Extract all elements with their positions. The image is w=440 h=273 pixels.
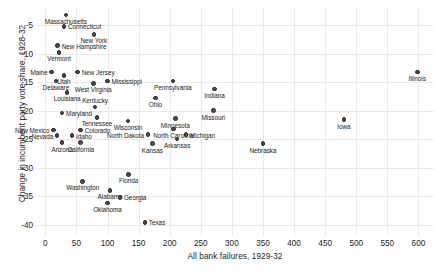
data-point[interactable] bbox=[108, 188, 113, 193]
data-point[interactable] bbox=[126, 172, 131, 177]
data-point-label: Kentucky bbox=[82, 97, 108, 104]
data-point-label: Florida bbox=[119, 177, 138, 184]
data-point-label: Nebraska bbox=[250, 147, 277, 154]
data-point[interactable] bbox=[175, 137, 180, 142]
data-point[interactable] bbox=[143, 220, 148, 225]
data-point[interactable] bbox=[173, 116, 178, 121]
data-point-label: Indiana bbox=[204, 92, 225, 99]
data-point-label: Wisconsin bbox=[114, 124, 143, 131]
data-point[interactable] bbox=[118, 195, 123, 200]
data-point-label: Pennsylvania bbox=[154, 84, 191, 91]
data-point-label: Idaho bbox=[76, 132, 92, 139]
data-point-label: Connecticut bbox=[68, 23, 101, 30]
data-point[interactable] bbox=[49, 70, 54, 75]
data-point[interactable] bbox=[211, 108, 216, 113]
data-point[interactable] bbox=[146, 132, 151, 137]
data-point[interactable] bbox=[78, 140, 83, 145]
data-point[interactable] bbox=[91, 81, 96, 86]
plot-area: MassachusettsConnecticutNew HampshireNew… bbox=[36, 8, 434, 236]
data-point-label: Iowa bbox=[337, 123, 350, 130]
data-point-label: Louisiana bbox=[54, 95, 81, 102]
data-point-label: New Jersey bbox=[82, 68, 115, 75]
data-point[interactable] bbox=[80, 179, 85, 184]
data-point-label: California bbox=[68, 146, 95, 153]
data-point-label: Texas bbox=[149, 219, 165, 226]
data-point[interactable] bbox=[93, 105, 98, 110]
data-point-label: Washington bbox=[66, 184, 99, 191]
data-point[interactable] bbox=[60, 111, 65, 116]
gridline-vertical bbox=[418, 8, 419, 236]
gridline-vertical bbox=[263, 8, 264, 236]
y-axis-tick-label: -30 bbox=[5, 163, 33, 172]
data-point-label: Maine bbox=[30, 68, 47, 75]
y-axis-tick-label: -25 bbox=[5, 135, 33, 144]
data-point[interactable] bbox=[60, 140, 65, 145]
gridline-vertical bbox=[45, 8, 46, 236]
data-point[interactable] bbox=[65, 90, 70, 95]
gridline-horizontal bbox=[36, 225, 434, 226]
data-point[interactable] bbox=[92, 32, 97, 37]
data-point-label: Kansas bbox=[142, 147, 163, 154]
data-point[interactable] bbox=[261, 141, 266, 146]
y-axis-tick-label: -10 bbox=[5, 49, 33, 58]
data-point-label: West Virginia bbox=[75, 86, 112, 93]
gridline-horizontal bbox=[36, 111, 434, 112]
data-point[interactable] bbox=[153, 96, 158, 101]
data-point-label: Illinois bbox=[409, 75, 426, 82]
gridline-vertical bbox=[139, 8, 140, 236]
data-point[interactable] bbox=[150, 141, 155, 146]
y-axis-tick-label: -35 bbox=[5, 192, 33, 201]
data-point[interactable] bbox=[62, 24, 67, 29]
data-point[interactable] bbox=[70, 133, 75, 138]
data-point[interactable] bbox=[212, 87, 217, 92]
data-point-label: Missouri bbox=[202, 114, 225, 121]
gridline-horizontal bbox=[36, 82, 434, 83]
data-point-label: Oklahoma bbox=[93, 206, 122, 213]
data-point[interactable] bbox=[75, 70, 80, 75]
gridline-vertical bbox=[387, 8, 388, 236]
data-point[interactable] bbox=[55, 133, 60, 138]
data-point-label: North Dakota bbox=[107, 131, 144, 138]
data-point[interactable] bbox=[342, 117, 347, 122]
x-axis-tick-labels: 050100150200250300350400450500550600 bbox=[36, 239, 434, 253]
data-point[interactable] bbox=[95, 115, 100, 120]
data-point-label: Georgia bbox=[124, 194, 146, 201]
data-point[interactable] bbox=[171, 127, 176, 132]
scatter-chart: Change in incumbent party vote share, 19… bbox=[0, 0, 440, 273]
gridline-horizontal bbox=[36, 139, 434, 140]
data-point-label: Michigan bbox=[190, 131, 215, 138]
data-point[interactable] bbox=[62, 73, 67, 78]
data-point[interactable] bbox=[57, 50, 62, 55]
y-axis-tick-label: -5 bbox=[5, 21, 33, 30]
gridline-vertical bbox=[356, 8, 357, 236]
y-axis-tick-label: -40 bbox=[5, 220, 33, 229]
data-point[interactable] bbox=[55, 43, 60, 48]
data-point[interactable] bbox=[64, 13, 69, 18]
gridline-horizontal bbox=[36, 54, 434, 55]
data-point-label: Mississippi bbox=[112, 77, 142, 84]
data-point[interactable] bbox=[105, 79, 110, 84]
data-point[interactable] bbox=[126, 119, 131, 124]
data-point-label: Vermont bbox=[47, 55, 70, 62]
x-axis-title: All bank failures, 1929-32 bbox=[36, 252, 434, 261]
gridline-vertical bbox=[325, 8, 326, 236]
y-axis-tick-label: -15 bbox=[5, 78, 33, 87]
gridline-vertical bbox=[294, 8, 295, 236]
gridline-horizontal bbox=[36, 168, 434, 169]
data-point[interactable] bbox=[415, 70, 420, 75]
x-axis-tick-label: 600 bbox=[398, 239, 438, 248]
data-point[interactable] bbox=[105, 201, 110, 206]
gridline-horizontal bbox=[36, 196, 434, 197]
data-point-label: New York bbox=[81, 37, 108, 44]
y-axis-tick-label: -20 bbox=[5, 106, 33, 115]
data-point[interactable] bbox=[184, 132, 189, 137]
data-point-label: Maryland bbox=[66, 109, 92, 116]
data-point-label: Ohio bbox=[149, 101, 162, 108]
gridline-vertical bbox=[232, 8, 233, 236]
data-point-label: Nevada bbox=[31, 132, 53, 139]
y-axis-tick-labels: -5-10-15-20-25-30-35-40 bbox=[0, 8, 33, 236]
data-point-label: Arkansas bbox=[164, 142, 190, 149]
gridline-vertical bbox=[201, 8, 202, 236]
